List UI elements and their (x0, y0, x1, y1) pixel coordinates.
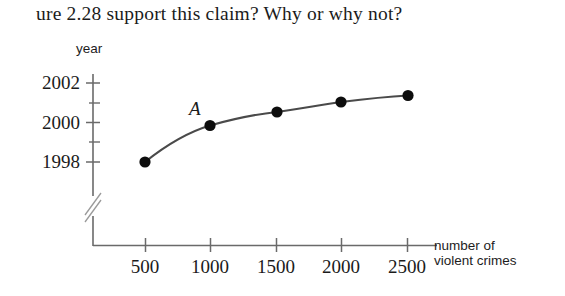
x-tick-label-1500: 1500 (246, 256, 306, 277)
figure-page: ure 2.28 support this claim? Why or why … (0, 0, 565, 296)
data-point-marker[interactable] (335, 96, 346, 107)
chart-figure: year 2002 2000 1998 500 1000 1500 2000 2… (0, 0, 565, 296)
y-tick-label-2002: 2002 (24, 72, 80, 93)
x-axis-title-line-2: violent crimes (434, 253, 517, 268)
x-tick-label-500: 500 (115, 256, 175, 277)
data-curve (145, 96, 408, 163)
data-point-marker[interactable] (271, 106, 282, 117)
x-axis-title: number of violent crimes (434, 238, 517, 268)
data-point-marker[interactable] (139, 156, 150, 167)
point-annotation-label-a: A (189, 99, 201, 119)
y-tick-label-1998: 1998 (24, 151, 80, 172)
data-point-marker[interactable] (204, 120, 215, 131)
data-point-marker[interactable] (402, 90, 413, 101)
x-axis-title-line-1: number of (434, 238, 517, 253)
x-tick-label-2500: 2500 (377, 256, 437, 277)
x-tick-label-2000: 2000 (311, 256, 371, 277)
x-tick-label-1000: 1000 (180, 256, 240, 277)
y-axis-title: year (76, 41, 102, 56)
y-tick-label-2000: 2000 (24, 112, 80, 133)
